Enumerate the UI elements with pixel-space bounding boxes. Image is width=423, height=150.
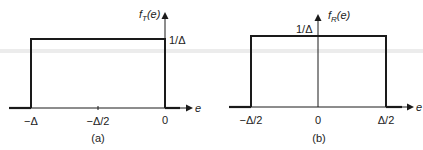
height-label-b: 1/Δ — [296, 23, 313, 35]
panel-a-truncation-pdf: fT(e) 1/Δ e −Δ −Δ/2 0 (a) — [9, 8, 201, 144]
x-axis-arrow-icon-a — [186, 105, 193, 112]
x-axis-label-b: e — [416, 101, 422, 113]
panel-b-rounding-pdf: fR(e) 1/Δ e −Δ/2 0 Δ/2 (b) — [229, 9, 422, 144]
y-axis-label-a: fT(e) — [139, 8, 161, 23]
pdf-diagram: fT(e) 1/Δ e −Δ −Δ/2 0 (a) fR(e) 1/Δ e −Δ… — [0, 0, 423, 150]
y-axis-label-b: fR(e) — [328, 9, 351, 24]
caption-a: (a) — [91, 132, 104, 144]
tick-label-zero-b: 0 — [315, 114, 321, 126]
tick-label-neg-half-delta-a: −Δ/2 — [87, 115, 110, 127]
x-axis-arrow-icon-b — [407, 104, 414, 111]
y-axis-arrow-icon-b — [315, 14, 322, 21]
y-axis-arrow-icon-a — [162, 12, 169, 19]
x-axis-label-a: e — [195, 102, 201, 114]
scan-band — [0, 49, 423, 53]
tick-label-half-delta-b: Δ/2 — [378, 114, 395, 126]
height-label-a: 1/Δ — [169, 34, 186, 46]
tick-label-neg-delta: −Δ — [24, 115, 38, 127]
tick-label-zero-a: 0 — [162, 114, 168, 126]
tick-label-neg-half-delta-b: −Δ/2 — [240, 114, 263, 126]
caption-b: (b) — [312, 132, 325, 144]
